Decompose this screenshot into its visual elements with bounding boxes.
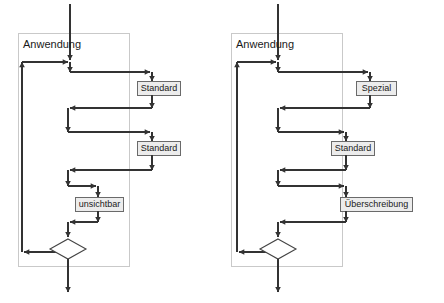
right-container-rect (232, 34, 343, 267)
left-node-3-box[interactable] (76, 198, 124, 212)
right-node-1-box[interactable] (357, 82, 397, 96)
right-container-title: Anwendung (236, 38, 294, 50)
left-container-title: Anwendung (23, 38, 81, 50)
diagram-canvas: Anwendung Standard Standard unsichtbar A… (0, 0, 444, 303)
left-decision-diamond[interactable] (50, 239, 86, 259)
right-decision-diamond[interactable] (260, 239, 296, 259)
left-node-2-box[interactable] (138, 142, 181, 156)
right-node-2-box[interactable] (332, 142, 375, 156)
left-container-rect (19, 34, 130, 267)
right-node-3-box[interactable] (341, 198, 413, 212)
left-node-1-box[interactable] (138, 82, 181, 96)
